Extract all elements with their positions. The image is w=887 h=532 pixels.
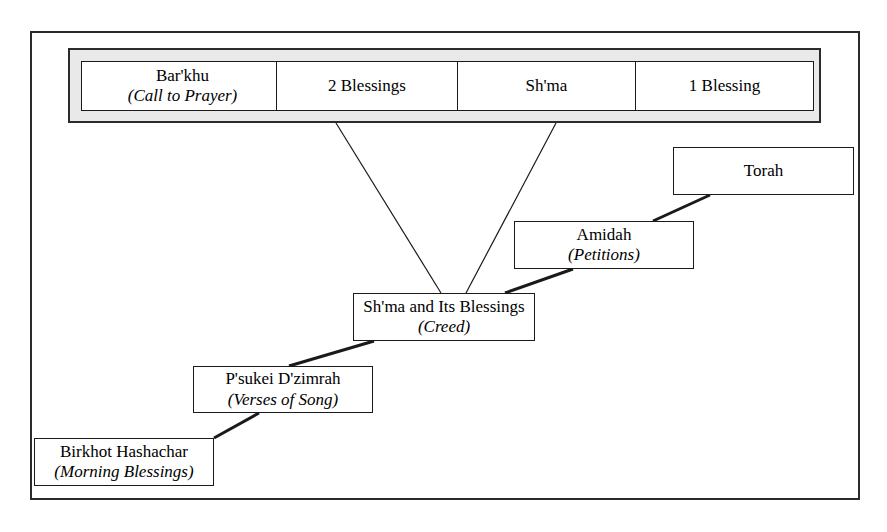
node-torah[interactable]: Torah <box>673 147 854 195</box>
node-title: Sh'ma and Its Blessings <box>363 297 524 317</box>
topbar-cell-barkhu[interactable]: Bar'khu (Call to Prayer) <box>81 61 284 111</box>
topbar-cell-two-blessings[interactable]: 2 Blessings <box>276 61 458 111</box>
node-subtitle: (Morning Blessings) <box>54 462 193 482</box>
node-psukei-dzimrah[interactable]: P'sukei D'zimrah (Verses of Song) <box>193 366 373 413</box>
topbar-cell-subtitle: (Call to Prayer) <box>128 86 238 106</box>
diagram-canvas: Bar'khu (Call to Prayer) 2 Blessings Sh'… <box>0 0 887 532</box>
node-subtitle: (Petitions) <box>568 245 640 265</box>
shma-expansion-bar: Bar'khu (Call to Prayer) 2 Blessings Sh'… <box>68 48 821 123</box>
topbar-cell-shma[interactable]: Sh'ma <box>457 61 636 111</box>
node-amidah[interactable]: Amidah (Petitions) <box>514 221 694 269</box>
topbar-cell-title: 2 Blessings <box>328 76 406 96</box>
node-shma-and-its-blessings[interactable]: Sh'ma and Its Blessings (Creed) <box>353 293 535 341</box>
node-subtitle: (Verses of Song) <box>228 390 338 410</box>
node-title: Torah <box>744 161 783 181</box>
node-title: Amidah <box>577 225 632 245</box>
node-birkhot-hashachar[interactable]: Birkhot Hashachar (Morning Blessings) <box>34 438 214 486</box>
node-title: P'sukei D'zimrah <box>225 369 340 389</box>
node-title: Birkhot Hashachar <box>60 442 188 462</box>
topbar-cell-title: Bar'khu <box>156 66 209 86</box>
node-subtitle: (Creed) <box>418 317 470 337</box>
topbar-cell-title: 1 Blessing <box>689 76 760 96</box>
topbar-cell-title: Sh'ma <box>526 76 568 96</box>
topbar-cell-one-blessing[interactable]: 1 Blessing <box>635 61 814 111</box>
